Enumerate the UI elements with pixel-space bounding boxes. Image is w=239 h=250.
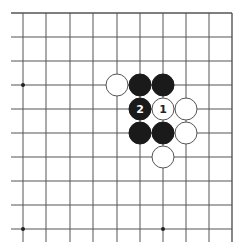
black-stone — [152, 122, 174, 144]
white-stone — [152, 146, 174, 168]
black-stone — [129, 74, 151, 96]
grid-lines — [11, 13, 232, 242]
white-stone — [175, 122, 197, 144]
move-number-label: 1 — [159, 103, 167, 116]
black-stone — [152, 74, 174, 96]
star-point — [161, 227, 165, 231]
move-number-label: 2 — [136, 103, 144, 116]
white-stone — [106, 74, 128, 96]
white-stone — [175, 98, 197, 120]
white-stone-1: 1 — [152, 98, 174, 120]
black-stone — [129, 122, 151, 144]
go-board: 21 — [0, 0, 239, 250]
star-point — [21, 227, 25, 231]
star-point — [21, 83, 25, 87]
stones: 21 — [106, 74, 197, 168]
black-stone-2: 2 — [129, 98, 151, 120]
